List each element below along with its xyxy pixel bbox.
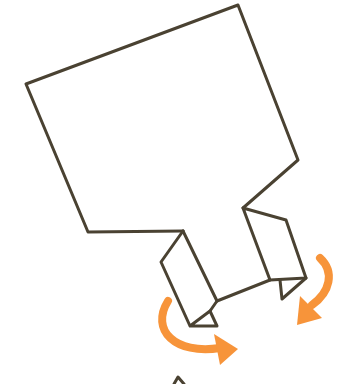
origami-diagram <box>0 0 347 384</box>
bottom-ink-mark <box>174 377 184 384</box>
left-fold-arrow-icon <box>162 301 238 365</box>
paper-body <box>26 5 298 232</box>
left-flap <box>161 231 270 326</box>
